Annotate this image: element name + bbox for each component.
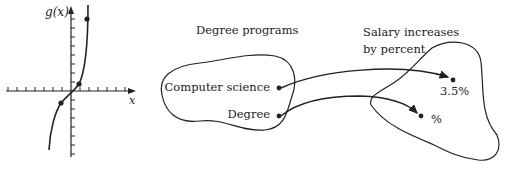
codomain-point — [451, 78, 456, 83]
codomain-point — [419, 114, 424, 119]
graph-point — [84, 16, 89, 21]
y-axis-arrow-icon — [68, 6, 74, 14]
codomain-item-percent: % — [431, 112, 442, 126]
codomain-title-line2: by percent — [363, 42, 426, 56]
codomain-set — [371, 42, 499, 160]
function-graph: g(x) x — [6, 5, 136, 157]
graph-point — [58, 100, 63, 105]
graph-point — [76, 81, 81, 86]
function-curve — [49, 5, 88, 150]
figure: g(x) x Degree programs Salary increases … — [0, 0, 507, 170]
figure-svg: g(x) x Degree programs Salary increases … — [0, 0, 507, 170]
domain-item-computer-science: Computer science — [165, 80, 271, 94]
mapping-arrow — [281, 69, 448, 88]
domain-point — [277, 86, 282, 91]
codomain-item-3-5-percent: 3.5% — [440, 84, 469, 98]
mapping-diagram: Degree programs Salary increases by perc… — [161, 23, 499, 160]
mapping-arrow — [281, 96, 417, 116]
domain-point — [277, 114, 282, 119]
y-axis-label: g(x) — [45, 5, 69, 19]
codomain-title-line1: Salary increases — [363, 25, 459, 39]
x-axis-label: x — [129, 94, 136, 107]
domain-item-degree: Degree — [228, 107, 271, 121]
domain-title: Degree programs — [196, 23, 299, 37]
